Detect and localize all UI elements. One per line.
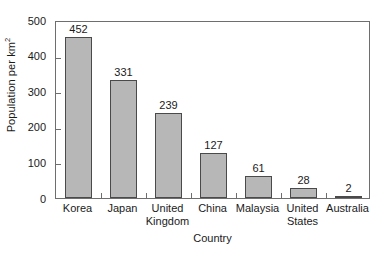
plot-area: 45233123912761282 [55, 21, 370, 199]
bar-slot: 452 [56, 22, 101, 198]
bar[interactable] [245, 176, 272, 198]
x-axis-title: Country [55, 232, 370, 245]
y-axis-tick-label: 0 [14, 194, 46, 205]
bar[interactable] [65, 37, 92, 198]
bar-slot: 28 [281, 22, 326, 198]
bar-slot: 239 [146, 22, 191, 198]
y-axis-tick-label: 300 [14, 87, 46, 98]
x-axis-tick-label-line: United [145, 202, 190, 215]
bar-slot: 2 [326, 22, 371, 198]
x-axis-tick-label-line: Australia [325, 202, 370, 215]
bar[interactable] [335, 196, 362, 198]
x-axis-tick-label-line: China [190, 202, 235, 215]
x-axis-tick-label: China [190, 202, 235, 215]
x-axis-tick-label-line: Korea [55, 202, 100, 215]
x-axis-tick-label-line: Kingdom [145, 215, 190, 228]
bar[interactable] [290, 188, 317, 198]
bar-slot: 61 [236, 22, 281, 198]
x-axis-tick-label-line: United [280, 202, 325, 215]
y-axis-tick-label: 200 [14, 122, 46, 133]
x-axis-tick-label: UnitedKingdom [145, 202, 190, 227]
x-axis-tick-labels: KoreaJapanUnitedKingdomChinaMalaysiaUnit… [55, 202, 370, 236]
bar[interactable] [155, 113, 182, 198]
x-axis-tick-label-line: Japan [100, 202, 145, 215]
y-axis-tick-label: 400 [14, 51, 46, 62]
bar[interactable] [110, 80, 137, 198]
bar-chart: Population per km2 0100200300400500 4523… [0, 0, 384, 258]
bar-value-label: 452 [56, 23, 101, 35]
x-axis-tick-label: Australia [325, 202, 370, 215]
y-axis-title-superscript: 2 [3, 38, 12, 42]
x-axis-tick-label: Korea [55, 202, 100, 215]
bar-slot: 127 [191, 22, 236, 198]
y-axis-tick-label: 100 [14, 158, 46, 169]
bar-slot: 331 [101, 22, 146, 198]
y-axis-tick-label: 500 [14, 16, 46, 27]
x-axis-tick-label-line: States [280, 215, 325, 228]
bar-value-label: 331 [101, 66, 146, 78]
x-axis-tick-label: UnitedStates [280, 202, 325, 227]
x-axis-tick-label-line: Malaysia [235, 202, 280, 215]
bar-value-label: 239 [146, 99, 191, 111]
x-axis-tick-label: Malaysia [235, 202, 280, 215]
bar[interactable] [200, 153, 227, 198]
bar-value-label: 2 [326, 182, 371, 194]
bar-value-label: 127 [191, 139, 236, 151]
bars-layer: 45233123912761282 [56, 22, 369, 198]
x-axis-tick-label: Japan [100, 202, 145, 215]
bar-value-label: 61 [236, 162, 281, 174]
bar-value-label: 28 [281, 174, 326, 186]
y-axis-tick-labels: 0100200300400500 [14, 0, 46, 258]
